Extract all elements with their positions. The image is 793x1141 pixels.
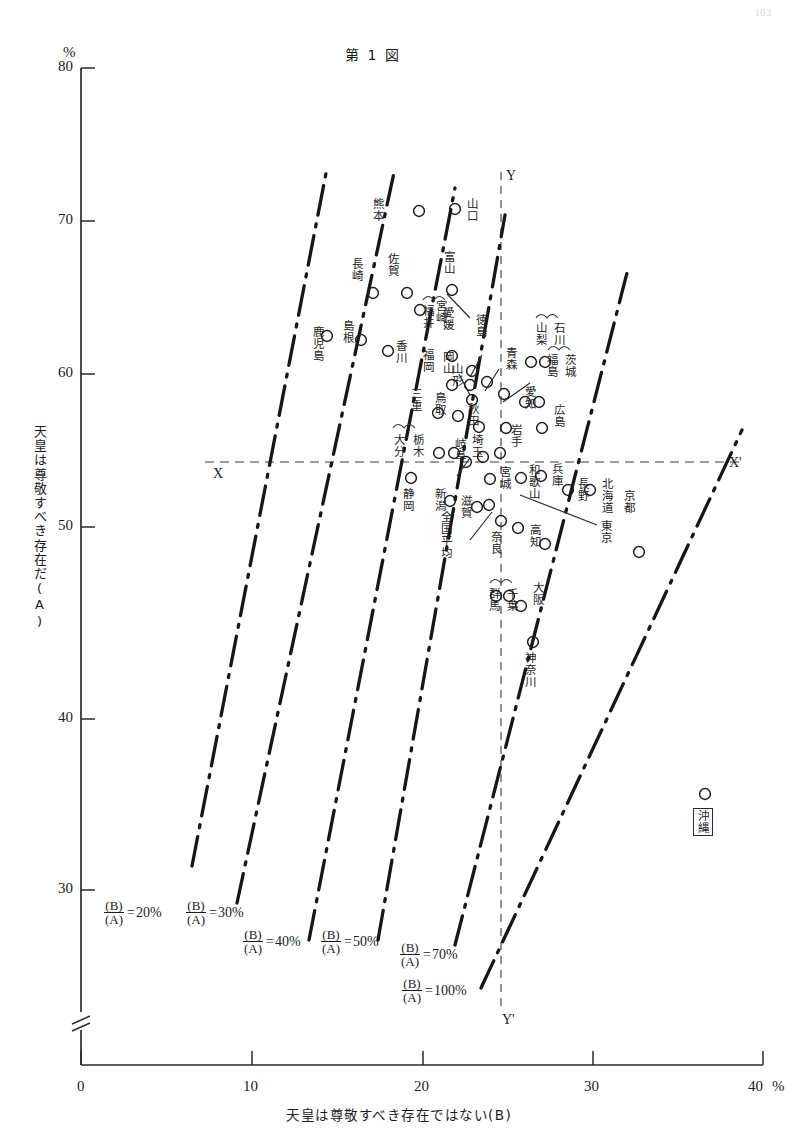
ratio-value: 30% xyxy=(218,905,244,921)
data-point-kagawa xyxy=(383,346,394,357)
y-tick-label-30: 30 xyxy=(58,880,73,897)
point-label-gunma: 群馬 xyxy=(487,588,499,612)
y-tick-label-50: 50 xyxy=(58,517,73,534)
ratio-value: 50% xyxy=(353,934,379,950)
point-label-tokushima: 徳島 xyxy=(474,314,486,338)
fraction-b-over-a: (B) (A) xyxy=(243,928,263,955)
x-tick-label-10: 10 xyxy=(243,1078,258,1095)
equals-sign: = xyxy=(266,934,274,950)
equals-sign: = xyxy=(423,947,431,963)
fraction-b-over-a: (B) (A) xyxy=(400,941,420,968)
point-label-hokkaido: 北海道 xyxy=(600,478,612,514)
point-label-nara: 奈良 xyxy=(489,531,501,555)
point-label-aichi: 愛知 xyxy=(523,386,535,410)
data-point-national-average xyxy=(484,500,495,511)
y-tick-label-80: 80 xyxy=(58,58,73,75)
x-axis-unit-percent: % xyxy=(772,1078,785,1095)
point-label-kagoshima: 鹿児島 xyxy=(311,326,323,362)
point-label-okinawa: 沖縄 xyxy=(693,808,713,836)
point-label-osaka: 大阪 xyxy=(531,582,543,606)
reference-line-group xyxy=(205,172,745,1012)
axis-break-mark xyxy=(72,1016,90,1024)
point-label-tochigi: 栃木 xyxy=(411,434,423,458)
data-point-miyagi xyxy=(485,474,496,485)
point-label-kochi: 高知 xyxy=(528,524,540,548)
point-label-yamaguchi: 山口 xyxy=(465,198,477,222)
data-point-shiga xyxy=(472,502,483,513)
ratio-value: 40% xyxy=(275,934,301,950)
point-label-ibaraki: 茨城 xyxy=(563,354,575,378)
data-point-tottori xyxy=(453,411,464,422)
x-tick-label-40: 40 xyxy=(748,1078,763,1095)
point-label-hiroshima: 広島 xyxy=(552,404,564,428)
data-point-yamanashi xyxy=(526,357,537,368)
x-tick-marks xyxy=(81,1051,763,1065)
point-label-tottori: 鳥取 xyxy=(433,392,445,416)
point-label-toyama: 富山 xyxy=(442,251,454,275)
point-label-fukushima: 福島 xyxy=(545,354,557,378)
point-label-saitama: 埼玉 xyxy=(470,434,482,458)
x-tick-label-0: 0 xyxy=(77,1078,85,1095)
ratio-legend-40: (B) (A) = 40% xyxy=(243,928,301,955)
axis-group xyxy=(72,68,763,1065)
point-label-fukui: 福井 xyxy=(421,305,433,329)
data-point-wakayama xyxy=(516,473,527,484)
equals-sign: = xyxy=(209,905,217,921)
data-point-kyoto xyxy=(634,547,645,558)
reference-label-y-prime: Y' xyxy=(502,1012,515,1028)
data-point-aomori xyxy=(499,389,510,400)
y-axis-title: 天皇は尊敬すべき存在だ(A) xyxy=(30,425,49,630)
ratio-legend-70: (B) (A) = 70% xyxy=(400,941,458,968)
data-point-hiroshima xyxy=(537,423,548,434)
fraction-b-over-a: (B) (A) xyxy=(104,899,124,926)
point-label-aomori: 青森 xyxy=(504,347,516,371)
fraction-b-over-a: (B) (A) xyxy=(186,899,206,926)
point-label-chiba: 千葉 xyxy=(505,588,517,612)
data-point-shizuoka xyxy=(406,473,417,484)
data-point-ehime xyxy=(467,366,478,377)
point-label-hyogo: 兵庫 xyxy=(550,463,562,487)
y-tick-label-40: 40 xyxy=(58,709,73,726)
point-label-shiga: 滋賀 xyxy=(459,495,471,519)
figure-canvas: 103 第 1 図 xyxy=(0,0,793,1141)
point-label-wakayama: 和歌山 xyxy=(527,464,539,500)
data-point-saga xyxy=(402,288,413,299)
data-point-toyama xyxy=(447,285,458,296)
brace-fukushima-ibaraki xyxy=(548,347,570,351)
point-label-kyoto: 京都 xyxy=(622,490,634,514)
data-point-iwate xyxy=(495,448,506,459)
point-label-ehime: 愛媛 xyxy=(441,307,453,331)
point-label-yamanashi: 山梨 xyxy=(534,322,546,346)
brace-yamanashi-ishikawa xyxy=(536,315,558,319)
ratio-line-group xyxy=(192,168,742,988)
fraction-b-over-a: (B) (A) xyxy=(321,928,341,955)
data-point-okinawa xyxy=(700,789,711,800)
fraction-b-over-a: (B) (A) xyxy=(402,977,422,1004)
point-label-shimane: 島根 xyxy=(341,320,353,344)
axis-break-mark xyxy=(72,1023,90,1031)
scatter-plot-svg xyxy=(0,0,793,1141)
point-label-nagano: 長野 xyxy=(576,478,588,502)
y-tick-marks xyxy=(81,68,95,890)
point-label-kumamoto: 熊本 xyxy=(371,198,383,222)
data-point-kumamoto xyxy=(414,206,425,217)
point-label-kagawa: 香川 xyxy=(394,340,406,364)
point-label-shizuoka: 静岡 xyxy=(401,488,413,512)
point-label-mie: 三重 xyxy=(409,388,421,412)
data-point-oita xyxy=(434,448,445,459)
point-label-gifu: 岐阜 xyxy=(453,438,465,462)
y-tick-label-60: 60 xyxy=(58,364,73,381)
reference-label-y: Y xyxy=(506,168,516,184)
point-label-saga: 佐賀 xyxy=(386,253,398,277)
point-label-tokyo: 東京 xyxy=(599,520,611,544)
x-axis-title: 天皇は尊敬すべき存在ではない(B) xyxy=(286,1104,512,1124)
reference-label-x-prime: X' xyxy=(729,455,742,471)
point-label-kanagawa: 神奈川 xyxy=(523,652,535,688)
point-label-ishikawa: 石川 xyxy=(552,322,564,346)
point-label-niigata: 新潟 xyxy=(433,488,445,512)
point-label-iwate: 岩手 xyxy=(509,424,521,448)
equals-sign: = xyxy=(425,983,433,999)
point-label-national-average: 全国平均 xyxy=(439,511,451,559)
ratio-line-20 xyxy=(192,168,327,866)
ratio-value: 20% xyxy=(136,905,162,921)
